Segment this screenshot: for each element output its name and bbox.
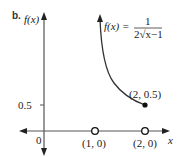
- open-point-2-0: [142, 128, 149, 135]
- y-axis-label: f(x): [24, 13, 40, 26]
- function-graph: b. f(x) x 0 0.5 f(x) = 1 2√x−1 (2, 0.5) …: [0, 0, 181, 157]
- closed-point-2-0.5: [142, 102, 147, 107]
- origin-label: 0: [36, 134, 42, 146]
- part-label: b.: [12, 10, 21, 21]
- x-axis-label: x: [167, 134, 173, 146]
- open-point-1-label: (1, 0): [82, 137, 106, 150]
- y-axis-up-arrow-icon: [41, 12, 47, 20]
- graph-svg: b. f(x) x 0 0.5 f(x) = 1 2√x−1 (2, 0.5) …: [0, 0, 181, 157]
- function-denominator: 2√x−1: [134, 28, 163, 40]
- y-tick-label: 0.5: [18, 99, 32, 111]
- y-axis-down-arrow-icon: [41, 148, 47, 156]
- open-point-1-0: [92, 128, 99, 135]
- x-axis-left-arrow-icon: [19, 128, 27, 134]
- closed-point-label: (2, 0.5): [129, 88, 161, 101]
- curve-arrow-icon: [97, 14, 103, 22]
- function-numerator: 1: [145, 15, 151, 27]
- function-lhs: f(x) =: [104, 20, 129, 33]
- open-point-2-label: (2, 0): [133, 137, 157, 150]
